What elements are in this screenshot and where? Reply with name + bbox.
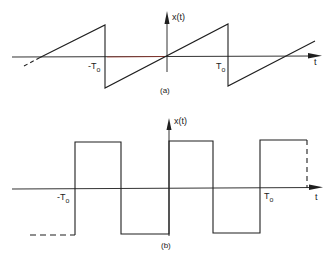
y-axis-label-a: x(t) [172, 12, 185, 22]
tick-neg-period-b: -To [57, 192, 69, 206]
tick-neg-period-a-text: -T [88, 61, 97, 71]
caption-b: (b) [161, 241, 171, 251]
x-axis-b-arrow-icon [167, 118, 172, 130]
waveform-diagrams [0, 0, 334, 261]
x-axis-label-b: t [315, 192, 318, 202]
figure-b [12, 118, 323, 236]
t-axis-b [12, 188, 316, 190]
figure-canvas: x(t) t -To To (a) x(t) t -To To (b) [0, 0, 334, 261]
tick-neg-period-a-sub: o [97, 66, 101, 73]
tick-pos-period-a-sub: o [222, 66, 226, 73]
x-axis-label-a: t [314, 57, 317, 67]
tick-pos-period-b-sub: o [270, 196, 274, 203]
tick-neg-period-a: -To [88, 61, 100, 75]
tick-pos-period-a: To [216, 61, 225, 75]
tick-neg-period-b-text: -T [57, 192, 66, 202]
caption-a: (a) [160, 86, 170, 96]
figure-a [12, 11, 322, 88]
tick-neg-period-b-sub: o [66, 197, 70, 204]
t-axis-a-red-segment [107, 57, 165, 58]
x-axis-a-arrow-icon [165, 11, 170, 24]
sawtooth-dashed-start [24, 58, 40, 67]
t-axis-b-arrow-icon [309, 185, 323, 191]
y-axis-label-b: x(t) [174, 116, 187, 126]
tick-pos-period-b: To [264, 191, 273, 205]
